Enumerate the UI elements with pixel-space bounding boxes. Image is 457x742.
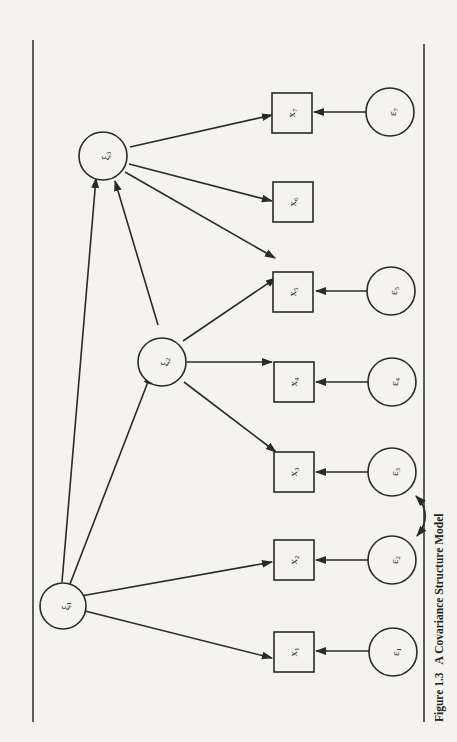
edge-xi1-x2 — [81, 562, 272, 596]
node-e2: ε2 — [368, 536, 416, 584]
node-e3: ε3 — [368, 448, 416, 496]
edge-xi2-xi3 — [115, 181, 158, 325]
node-xi2: ξ2 — [138, 338, 186, 386]
covariance-structure-diagram: ξ1 ξ2 ξ3 x1 x2 x3 x4 x5 x6 x7 ε1 — [0, 0, 457, 742]
node-x2: x2 — [274, 540, 314, 580]
node-e1: ε1 — [369, 628, 417, 676]
node-x6: x6 — [273, 182, 313, 222]
edge-xi2-x3 — [184, 382, 276, 452]
figure-page: ξ1 ξ2 ξ3 x1 x2 x3 x4 x5 x6 x7 ε1 — [0, 0, 457, 742]
node-x5: x5 — [273, 272, 313, 312]
edge-xi3-x6 — [129, 164, 272, 201]
node-xi3: ξ3 — [79, 132, 127, 180]
node-e5: ε5 — [367, 267, 415, 315]
node-x7: x7 — [272, 93, 312, 133]
edge-xi1-xi2 — [70, 374, 151, 584]
node-x3: x3 — [274, 452, 314, 492]
edge-xi3-x7 — [130, 115, 272, 147]
edge-xi2-x5 — [183, 278, 276, 341]
caption-title: A Covariance Structure Model — [433, 514, 445, 665]
edge-xi1-x1 — [81, 610, 272, 658]
caption-number: Figure 1.3 — [433, 672, 446, 722]
node-x4: x4 — [274, 362, 314, 402]
node-x1: x1 — [274, 632, 314, 672]
node-e4: ε4 — [368, 358, 416, 406]
node-xi1: ξ1 — [40, 583, 86, 629]
edge-xi3-x5 — [125, 172, 275, 258]
figure-caption: Figure 1.3A Covariance Structure Model — [433, 514, 446, 722]
edge-xi1-xi3 — [62, 178, 96, 582]
node-e7: ε7 — [366, 88, 414, 136]
